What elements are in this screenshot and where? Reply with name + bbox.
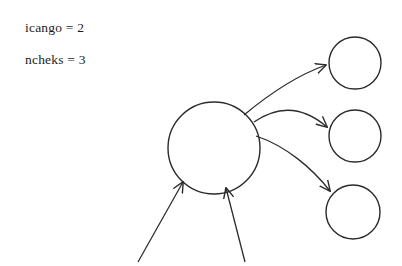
target-node-middle[interactable]: [329, 110, 381, 162]
target-node-bottom[interactable]: [326, 185, 380, 239]
diagram-canvas: icango = 2 ncheks = 3: [0, 0, 402, 266]
central-node[interactable]: [168, 102, 260, 194]
edge-incoming-right: [226, 188, 245, 262]
annotation-icango: icango = 2: [25, 20, 84, 36]
annotation-ncheks: ncheks = 3: [25, 52, 86, 68]
node-group: [168, 37, 381, 239]
diagram-graphic: [0, 0, 402, 266]
edge-main-to-bottom: [256, 136, 330, 191]
target-node-top[interactable]: [329, 37, 381, 89]
edge-main-to-middle: [254, 110, 327, 127]
edge-incoming-left: [138, 182, 183, 262]
edge-main-to-top: [244, 65, 326, 115]
edge-group: [138, 65, 330, 262]
